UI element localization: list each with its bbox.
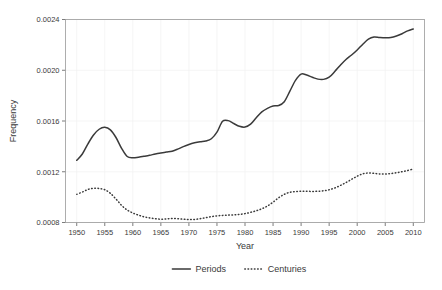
x-tick-label: 1970 — [181, 228, 198, 237]
x-tick-label: 2010 — [405, 228, 422, 237]
y-tick-label: 0.0020 — [37, 66, 60, 75]
x-tick-label: 1980 — [237, 228, 254, 237]
x-tick-label: 1955 — [96, 228, 113, 237]
y-tick-label: 0.0024 — [37, 15, 60, 24]
legend-label-centuries: Centuries — [268, 264, 307, 274]
x-tick-label: 2005 — [377, 228, 394, 237]
x-tick-label: 1985 — [265, 228, 282, 237]
y-tick-label: 0.0008 — [37, 218, 60, 227]
x-tick-label: 1965 — [153, 228, 170, 237]
frequency-line-chart: 1950195519601965197019751980198519901995… — [0, 0, 442, 290]
x-tick-label: 1990 — [293, 228, 310, 237]
x-tick-label: 1960 — [124, 228, 141, 237]
y-axis-title: Frequency — [8, 99, 18, 142]
legend-label-periods: Periods — [195, 264, 226, 274]
chart-background — [0, 0, 442, 290]
x-tick-label: 1995 — [321, 228, 338, 237]
x-tick-label: 2000 — [349, 228, 366, 237]
x-axis-title: Year — [236, 241, 254, 251]
y-tick-label: 0.0016 — [37, 117, 60, 126]
y-tick-label: 0.0012 — [37, 168, 60, 177]
x-tick-label: 1975 — [209, 228, 226, 237]
x-tick-label: 1950 — [68, 228, 85, 237]
